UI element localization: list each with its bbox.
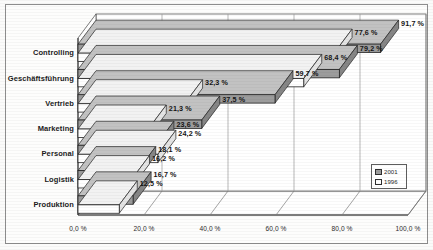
category-label: Produktion	[2, 200, 74, 209]
category-label: Vertrieb	[2, 99, 74, 108]
x-tick-label: 0,0 %	[60, 225, 96, 232]
bar-value-label: 37,5 %	[222, 96, 245, 104]
bar-value-label: 91,7 %	[401, 20, 424, 28]
bar-value-label: 32,3 %	[205, 79, 228, 87]
bar-value-label: 77,6 %	[355, 29, 378, 37]
legend-label: 1996	[384, 179, 398, 186]
category-label: Marketing	[2, 124, 74, 133]
bar-value-label: 79,2 %	[360, 45, 383, 53]
bar-value-label: 24,2 %	[178, 130, 201, 138]
bar-value-label: 18,1 %	[158, 146, 181, 154]
gray-swatch-icon	[375, 169, 382, 175]
legend-label: 2001	[384, 169, 398, 176]
x-tick-label: 60,0 %	[258, 225, 294, 232]
legend-item-1996: 1996	[375, 177, 404, 187]
x-tick-label: 40,0 %	[192, 225, 228, 232]
category-axis-labels: ControllingGeschäftsführungVertriebMarke…	[0, 0, 74, 250]
category-label: Personal	[2, 149, 74, 158]
chart-legend: 2001 1996	[371, 164, 407, 189]
category-label: Geschäftsführung	[2, 74, 74, 83]
bar-front-face	[78, 205, 119, 213]
bar-value-label: 68,4 %	[324, 54, 347, 62]
category-label: Controlling	[2, 48, 74, 57]
x-tick-label: 20,0 %	[126, 225, 162, 232]
white-swatch-icon	[375, 179, 382, 185]
bar-value-label: 16,7 %	[154, 171, 177, 179]
bar-value-label: 23,6 %	[176, 121, 199, 129]
chart-screenshot: ControllingGeschäftsführungVertriebMarke…	[0, 0, 433, 250]
category-label: Logistik	[2, 175, 74, 184]
legend-item-2001: 2001	[375, 167, 404, 177]
bar-value-label: 59,7 %	[296, 70, 319, 78]
x-tick-label: 80,0 %	[324, 225, 360, 232]
bar-value-label: 16,2 %	[152, 155, 175, 163]
bar-value-label: 21,3 %	[169, 105, 192, 113]
bar-value-label: 12,5 %	[140, 180, 163, 188]
x-tick-label: 100,0 %	[390, 225, 426, 232]
